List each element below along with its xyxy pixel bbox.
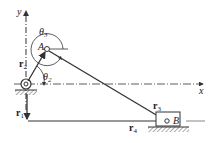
x-axis-label: x [199,86,203,96]
r3-label: r3 [153,101,161,113]
vector-r3 [49,51,163,119]
point-b-label: B [173,116,179,126]
r2-label: r2 [19,59,27,71]
ground-hatch-b [148,127,189,132]
theta3-label: θ3 [39,27,47,39]
mechanism-diagram [0,0,217,143]
y-axis-label: y [17,7,21,17]
pin-b [165,119,169,123]
ground-hatch-o [15,90,37,95]
r1-label: r1 [16,108,24,120]
point-a-label: A [38,42,44,52]
r4-label: r4 [129,123,137,135]
pin-a [45,47,50,52]
theta2-label: θ2 [43,72,51,84]
